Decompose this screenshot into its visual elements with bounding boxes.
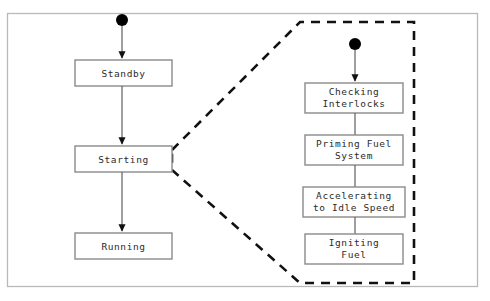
state-igniting-fuel[interactable]: Igniting Fuel <box>305 234 403 264</box>
state-label-line1: Checking <box>329 86 380 97</box>
main-region: Standby Starting Running <box>75 14 172 259</box>
state-machine-diagram: Standby Starting Running Checking Interl… <box>0 0 490 301</box>
expanded-region-substates: Checking Interlocks Priming Fuel System … <box>303 38 405 264</box>
state-checking-interlocks[interactable]: Checking Interlocks <box>305 83 403 113</box>
state-label-line2: System <box>335 150 373 161</box>
state-label-line1: Igniting <box>329 237 380 248</box>
initial-node-main <box>116 14 128 26</box>
state-label-line1: Priming Fuel <box>316 138 392 149</box>
diagram-canvas: Standby Starting Running Checking Interl… <box>0 0 490 301</box>
state-running[interactable]: Running <box>75 233 172 259</box>
state-label: Starting <box>98 154 149 165</box>
state-label-line2: Interlocks <box>322 98 385 109</box>
state-starting[interactable]: Starting <box>75 146 172 172</box>
state-priming-fuel-system[interactable]: Priming Fuel System <box>305 135 403 165</box>
state-standby[interactable]: Standby <box>75 60 172 86</box>
initial-node-substates <box>349 38 361 50</box>
state-label-line2: Fuel <box>341 249 366 260</box>
state-accelerating-to-idle-speed[interactable]: Accelerating to Idle Speed <box>303 187 405 217</box>
state-label-line2: to Idle Speed <box>313 202 395 213</box>
state-label: Running <box>101 241 145 252</box>
state-label-line1: Accelerating <box>316 190 392 201</box>
state-label: Standby <box>101 68 145 79</box>
